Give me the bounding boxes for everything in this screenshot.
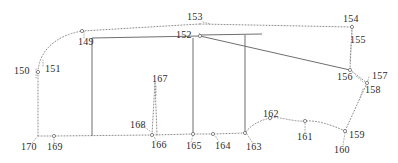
reference-label-167: 167: [152, 73, 168, 84]
reference-label-154: 154: [343, 13, 359, 24]
leader-158: [360, 89, 363, 98]
contour-bottom-edge-166: [152, 134, 193, 135]
reference-label-168: 168: [130, 119, 146, 130]
reference-label-164: 164: [215, 140, 231, 151]
contour-bottom-right-curve: [305, 121, 345, 131]
reference-label-159: 159: [349, 129, 365, 140]
node-164: [211, 132, 214, 135]
reference-label-165: 165: [186, 140, 202, 151]
contour-bottom-left-162: [245, 118, 270, 133]
node-165: [191, 132, 194, 135]
reference-label-group: 1491501511521531541551561571581591601611…: [14, 11, 388, 155]
leader-155: [350, 45, 351, 62]
contour-bottom-edge-164: [213, 133, 245, 134]
reference-label-151: 151: [45, 63, 61, 74]
node-154: [350, 25, 353, 28]
reference-label-158: 158: [365, 84, 381, 95]
reference-label-169: 169: [47, 141, 63, 152]
reference-label-155: 155: [350, 34, 366, 45]
node-152: [198, 34, 201, 37]
reference-label-152: 152: [176, 29, 192, 40]
technical-line-figure: 1491501511521531541551561571581591601611…: [0, 0, 398, 163]
node-163: [243, 131, 246, 134]
contour-top-right-edge: [200, 24, 352, 27]
node-151: [36, 70, 39, 73]
reference-label-166: 166: [151, 139, 167, 150]
node-169: [52, 134, 55, 137]
reference-label-156: 156: [337, 71, 353, 82]
solid-diagonal-152-156: [200, 36, 350, 70]
reference-label-150: 150: [14, 65, 30, 76]
reference-label-161: 161: [297, 131, 313, 142]
reference-label-149: 149: [78, 36, 94, 47]
node-161: [303, 119, 306, 122]
node-166: [150, 133, 153, 136]
reference-label-170: 170: [21, 141, 37, 152]
solid-short-horizontal: [200, 34, 262, 35]
reference-label-160: 160: [334, 144, 350, 155]
diagram-canvas: 1491501511521531541551561571581591601611…: [0, 0, 398, 163]
reference-label-157: 157: [372, 70, 388, 81]
node-159: [343, 129, 346, 132]
node-149: [80, 29, 83, 32]
contour-bottom-edge-169: [54, 135, 152, 136]
reference-label-162: 162: [263, 108, 279, 119]
reference-label-153: 153: [187, 11, 203, 22]
contour-right-lower-edge: [345, 83, 367, 131]
reference-label-163: 163: [246, 141, 262, 152]
